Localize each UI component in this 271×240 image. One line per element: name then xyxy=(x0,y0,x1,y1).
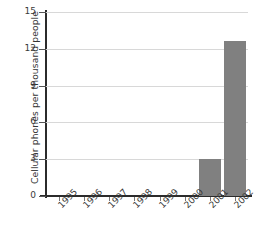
bar-chart: Cellular phones per thousand people 0369… xyxy=(0,0,271,240)
y-axis-tick-mark xyxy=(39,49,46,50)
y-axis-tick-mark xyxy=(39,86,46,87)
y-axis-tick-label: 6 xyxy=(6,116,36,126)
y-axis-tick-mark xyxy=(39,122,46,123)
bar-2002 xyxy=(224,41,246,196)
y-axis-tick-mark xyxy=(39,12,46,13)
y-axis-tick-label: 0 xyxy=(6,190,36,200)
y-axis-title: Cellular phones per thousand people xyxy=(29,0,40,198)
gridline xyxy=(46,122,248,123)
y-axis-tick-label: 15 xyxy=(6,6,36,16)
gridline xyxy=(46,86,248,87)
gridline xyxy=(46,12,248,13)
gridline xyxy=(46,49,248,50)
y-axis-tick-label: 9 xyxy=(6,80,36,90)
plot-area xyxy=(46,12,248,196)
y-axis-tick-mark xyxy=(39,159,46,160)
y-axis-tick-label: 3 xyxy=(6,153,36,163)
y-axis-tick-label: 12 xyxy=(6,43,36,53)
y-axis-tick-mark xyxy=(39,196,46,197)
